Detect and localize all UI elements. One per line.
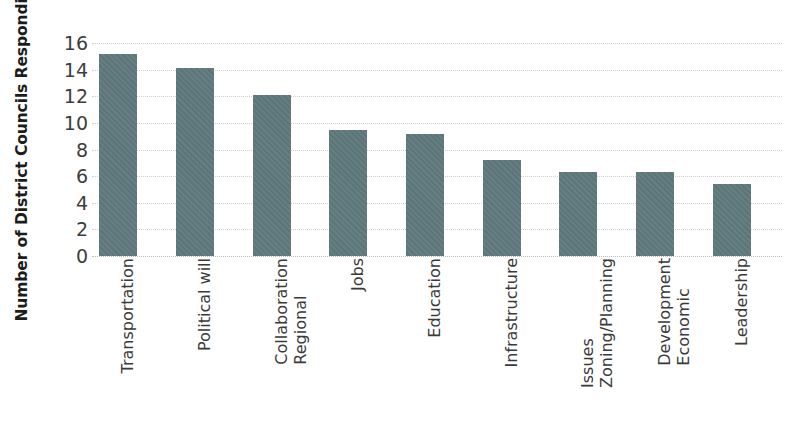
- x-axis-category-label: Transportation: [99, 258, 137, 440]
- x-axis-category-label: Leadership: [713, 258, 751, 440]
- x-axis-category-label-line: Education: [425, 258, 444, 338]
- x-axis-category-label-line: Infrastructure: [502, 258, 521, 367]
- x-axis-category-label: RegionalCollaboration: [253, 258, 291, 440]
- x-axis-category-label-line: Development: [655, 258, 674, 366]
- x-axis-category-labels: TransportationPolitical willRegionalColl…: [92, 258, 782, 440]
- x-axis-category-label: Zoning/PlanningIssues: [559, 258, 597, 440]
- x-axis-category-label: Jobs: [329, 258, 367, 440]
- bar-chart: Number of District Councils Responding 0…: [0, 0, 787, 440]
- bar[interactable]: [329, 130, 367, 256]
- y-axis-tick-label: 8: [52, 140, 88, 159]
- y-axis-tick-label: 2: [52, 220, 88, 239]
- y-axis-tick-label: 14: [52, 60, 88, 79]
- y-axis-tick-label: 0: [52, 247, 88, 266]
- bar[interactable]: [559, 172, 597, 256]
- gridline: [92, 43, 782, 44]
- x-axis-category-label-line: Regional: [291, 296, 310, 365]
- x-axis-category-label: Education: [406, 258, 444, 440]
- bar[interactable]: [253, 95, 291, 256]
- bar[interactable]: [483, 160, 521, 256]
- y-axis-title-text: Number of District Councils Responding: [13, 0, 31, 322]
- x-axis-category-label-line: Leadership: [732, 258, 751, 346]
- bar[interactable]: [99, 54, 137, 256]
- x-axis-category-label-line: Collaboration: [272, 258, 291, 365]
- x-axis-category-label-line: Jobs: [348, 258, 367, 291]
- x-axis-category-label-line: Zoning/Planning: [597, 258, 616, 388]
- plot-area: [92, 43, 782, 256]
- bar[interactable]: [713, 184, 751, 256]
- x-axis-category-label: Infrastructure: [483, 258, 521, 440]
- x-axis-category-label-line: Political will: [195, 258, 214, 351]
- x-axis-category-label: Political will: [176, 258, 214, 440]
- y-axis-tick-label: 12: [52, 87, 88, 106]
- y-axis-tick-label: 4: [52, 193, 88, 212]
- gridline: [92, 256, 782, 257]
- bar[interactable]: [176, 68, 214, 256]
- x-axis-category-label: EconomicDevelopment: [636, 258, 674, 440]
- y-axis-tick-label: 6: [52, 167, 88, 186]
- y-axis-tick-label: 10: [52, 113, 88, 132]
- y-axis-tick-labels: 0246810121416: [44, 43, 88, 256]
- x-axis-category-label-line: Transportation: [118, 258, 137, 374]
- x-axis-category-label-line: Issues: [578, 338, 597, 388]
- bar[interactable]: [636, 172, 674, 256]
- bar[interactable]: [406, 134, 444, 256]
- x-axis-category-label-line: Economic: [674, 288, 693, 365]
- y-axis-tick-label: 16: [52, 34, 88, 53]
- y-axis-title: Number of District Councils Responding: [0, 0, 44, 440]
